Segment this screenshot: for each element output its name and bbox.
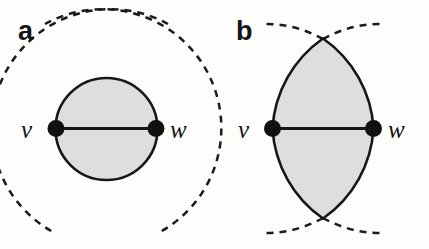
panel-a: a v w (0, 9, 221, 232)
panel-b: b v w (236, 16, 405, 233)
panel-b-vertex-w (365, 120, 382, 137)
panel-b-dashed-arc-top-left (262, 24, 323, 39)
panel-a-vertex-w-label: w (170, 116, 187, 143)
panel-b-label: b (236, 16, 253, 46)
panel-b-vertex-w-label: w (388, 116, 405, 143)
panel-a-vertex-v (48, 120, 65, 137)
panel-a-vertex-w (148, 120, 165, 137)
panel-a-vertex-v-label: v (21, 116, 33, 143)
panel-b-dashed-arc-top-right (323, 24, 384, 39)
panel-b-dashed-arc-bottom-right (323, 218, 384, 233)
panel-b-dashed-arc-bottom-left (262, 218, 323, 233)
panel-b-vertex-v (264, 120, 281, 137)
figure-container: a v w (0, 0, 429, 249)
panel-a-label: a (18, 16, 34, 46)
figure-svg: a v w (0, 0, 429, 249)
panel-b-vertex-v-label: v (238, 116, 250, 143)
